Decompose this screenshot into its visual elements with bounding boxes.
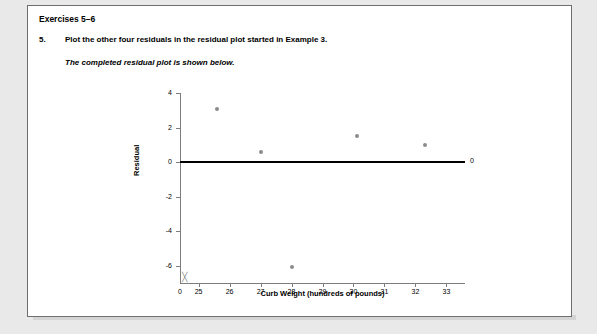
x-tick (353, 283, 354, 287)
x-tick-label: 26 (220, 288, 240, 295)
data-point (259, 150, 263, 154)
x-tick-label: 32 (405, 288, 425, 295)
y-tick (176, 231, 180, 232)
data-point (215, 107, 219, 111)
origin-label: 0 (170, 288, 190, 295)
x-tick (261, 283, 262, 287)
data-point (355, 134, 359, 138)
plot-area: 420-2-4-6 2526272829303132330 ╳0 (180, 93, 465, 283)
y-tick (176, 128, 180, 129)
x-tick-label: 29 (313, 288, 333, 295)
y-tick-label: 0 (150, 158, 172, 165)
y-tick-label: 4 (150, 89, 172, 96)
page-canvas: Exercises 5–6 5. Plot the other four res… (0, 0, 597, 334)
section-heading: Exercises 5–6 (39, 14, 95, 24)
reference-line (180, 161, 465, 163)
y-tick (176, 266, 180, 267)
x-tick (415, 283, 416, 287)
x-tick (384, 283, 385, 287)
x-tick (446, 283, 447, 287)
y-tick-label: -6 (150, 262, 172, 269)
x-tick (323, 283, 324, 287)
question-subtext: The completed residual plot is shown bel… (65, 58, 235, 67)
reference-line-label: 0 (470, 157, 474, 164)
x-tick-label: 28 (282, 288, 302, 295)
x-tick-label: 33 (436, 288, 456, 295)
x-tick-label: 27 (251, 288, 271, 295)
x-tick (230, 283, 231, 287)
question-number: 5. (39, 35, 46, 44)
y-tick (176, 197, 180, 198)
x-tick (199, 283, 200, 287)
x-tick-label: 30 (343, 288, 363, 295)
worksheet-card: Exercises 5–6 5. Plot the other four res… (27, 5, 572, 317)
data-point (423, 143, 427, 147)
y-tick-label: -4 (150, 227, 172, 234)
axis-break-icon: ╳ (182, 273, 187, 282)
x-tick (292, 283, 293, 287)
data-point (290, 265, 294, 269)
y-axis-line (180, 93, 181, 283)
y-tick-label: -2 (150, 193, 172, 200)
question-text: Plot the other four residuals in the res… (65, 35, 327, 44)
y-tick-label: 2 (150, 124, 172, 131)
x-tick-label: 31 (374, 288, 394, 295)
y-axis-title: Residual (132, 145, 141, 176)
x-tick-label: 25 (189, 288, 209, 295)
y-tick (176, 93, 180, 94)
residual-plot: Residual Curb Weight (hundreds of pounds… (118, 81, 518, 306)
